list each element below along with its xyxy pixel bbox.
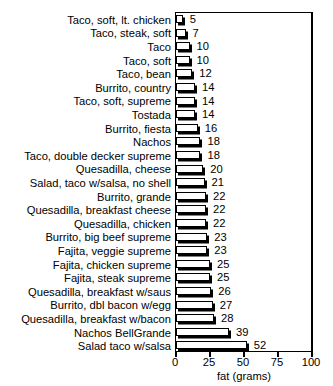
bar (176, 233, 207, 241)
category-label: Burrito, country (0, 82, 171, 94)
bar-value-label: 10 (197, 40, 209, 52)
category-label: Taco, bean (0, 68, 171, 80)
bar (176, 287, 211, 295)
category-label: Salad, taco w/salsa, no shell (0, 177, 171, 189)
bar (176, 97, 195, 105)
x-axis-title: fat (grams) (175, 370, 313, 382)
bar-value-label: 16 (205, 122, 217, 134)
bar (176, 205, 206, 213)
bar-value-label: 23 (214, 231, 226, 243)
bar (176, 165, 203, 173)
category-label: Nachos BellGrande (0, 327, 171, 339)
bar-value-label: 25 (217, 258, 229, 270)
bar-rows: Taco, soft, lt. chicken5Taco, steak, sof… (0, 12, 333, 352)
bar-value-label: 14 (202, 108, 214, 120)
category-label: Quesadilla, breakfast w/bacon (0, 313, 171, 325)
bar-value-label: 10 (197, 54, 209, 66)
bar-value-label: 23 (214, 244, 226, 256)
x-axis-tick-labels: 0255075100 (0, 356, 333, 370)
category-label: Fajita, steak supreme (0, 272, 171, 284)
bar-value-label: 27 (220, 299, 232, 311)
category-label: Burrito, big beef supreme (0, 231, 171, 243)
bar (176, 328, 229, 336)
bar (176, 273, 210, 281)
bar-value-label: 39 (236, 326, 248, 338)
bar-chart: ...... ... .... .. .... Taco, soft, lt. … (0, 0, 333, 386)
bar (176, 260, 210, 268)
bar (176, 42, 190, 50)
bar (176, 124, 198, 132)
x-tick-label: 100 (291, 356, 331, 369)
bar (176, 56, 190, 64)
bar-value-label: 22 (213, 190, 225, 202)
chart-title-cropped: ...... ... .... .. .... (158, 0, 308, 1)
category-label: Quesadilla, cheese (0, 163, 171, 175)
bar (176, 178, 205, 186)
bar (176, 246, 207, 254)
category-label: Taco, soft, lt. chicken (0, 14, 171, 26)
bar (176, 83, 195, 91)
bar-value-label: 28 (221, 312, 233, 324)
category-label: Fajita, chicken supreme (0, 259, 171, 271)
category-label: Taco, steak, soft (0, 27, 171, 39)
bar (176, 151, 200, 159)
category-label: Tostada (0, 109, 171, 121)
category-label: Fajita, veggie supreme (0, 245, 171, 257)
category-label: Burrito, grande (0, 191, 171, 203)
bar (176, 69, 192, 77)
bar-value-label: 25 (217, 271, 229, 283)
bar-value-label: 22 (213, 217, 225, 229)
bar (176, 110, 195, 118)
category-label: Taco, double decker supreme (0, 150, 171, 162)
bar-value-label: 26 (218, 285, 230, 297)
bar-value-label: 20 (210, 163, 222, 175)
category-label: Quesadilla, breakfast cheese (0, 204, 171, 216)
bar-value-label: 14 (202, 81, 214, 93)
bar-value-label: 52 (254, 339, 266, 351)
bar-value-label: 12 (199, 67, 211, 79)
bar (176, 29, 186, 37)
bar-value-label: 22 (213, 203, 225, 215)
category-label: Taco, soft (0, 55, 171, 67)
bar (176, 314, 214, 322)
bar (176, 341, 247, 349)
bar (176, 192, 206, 200)
category-label: Burrito, fiesta (0, 123, 171, 135)
category-label: Salad taco w/salsa (0, 340, 171, 352)
bar (176, 137, 200, 145)
bar (176, 15, 183, 23)
bar-value-label: 5 (190, 13, 196, 25)
bar-value-label: 18 (207, 149, 219, 161)
bar-value-label: 14 (202, 95, 214, 107)
category-label: Burrito, dbl bacon w/egg (0, 299, 171, 311)
category-label: Taco, soft, supreme (0, 95, 171, 107)
category-label: Quesadilla, chicken (0, 218, 171, 230)
category-label: Taco (0, 41, 171, 53)
category-label: Quesadilla, breakfast w/saus (0, 286, 171, 298)
bar-value-label: 18 (207, 135, 219, 147)
bar (176, 219, 206, 227)
bar-value-label: 21 (212, 176, 224, 188)
category-label: Nachos (0, 136, 171, 148)
bar-value-label: 7 (193, 27, 199, 39)
bar (176, 301, 213, 309)
